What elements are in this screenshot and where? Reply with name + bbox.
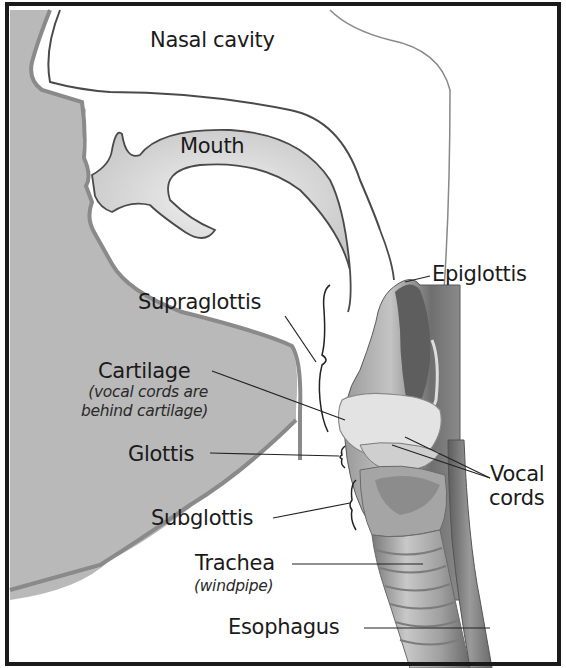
supraglottis-brace bbox=[319, 285, 330, 432]
epiglottis-leader bbox=[405, 276, 430, 282]
label-vocal: Vocal bbox=[490, 464, 544, 485]
glottis-brace bbox=[340, 446, 345, 468]
label-trachea-note: (windpipe) bbox=[194, 579, 273, 595]
label-esophagus: Esophagus bbox=[228, 617, 339, 638]
label-epiglottis: Epiglottis bbox=[432, 264, 527, 285]
label-glottis: Glottis bbox=[128, 444, 194, 465]
label-cartilage-note-2: behind cartilage) bbox=[50, 404, 208, 420]
label-cartilage-note-1: (vocal cords are bbox=[64, 385, 208, 401]
label-cartilage: Cartilage bbox=[98, 361, 191, 382]
subglottis-leader bbox=[273, 503, 350, 518]
anatomy-illustration bbox=[0, 0, 566, 668]
label-subglottis: Subglottis bbox=[151, 508, 253, 529]
label-nasal-cavity: Nasal cavity bbox=[150, 30, 275, 51]
label-mouth: Mouth bbox=[180, 136, 244, 157]
label-cords: cords bbox=[489, 488, 544, 509]
label-supraglottis: Supraglottis bbox=[138, 292, 261, 313]
larynx-diagram: Nasal cavity Mouth Epiglottis Supraglott… bbox=[0, 0, 566, 668]
label-trachea: Trachea bbox=[195, 553, 275, 574]
